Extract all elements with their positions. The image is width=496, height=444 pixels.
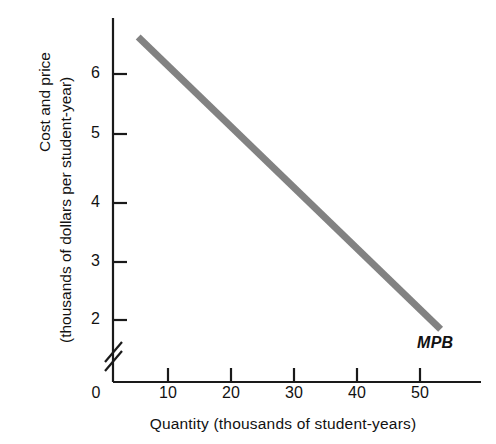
chart-figure: Cost and price (thousands of dollars per… bbox=[0, 0, 496, 444]
mpb-curve-line bbox=[138, 37, 440, 329]
plot-area bbox=[0, 0, 496, 444]
